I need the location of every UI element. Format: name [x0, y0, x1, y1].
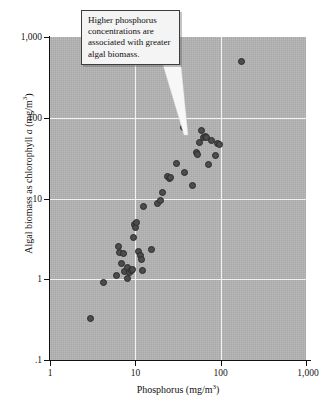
x-ticklabel-1000: 1,000	[286, 368, 330, 378]
data-point	[205, 161, 212, 168]
y-tick-1000	[44, 37, 50, 38]
data-point	[87, 315, 94, 322]
data-point	[189, 182, 196, 189]
data-point	[167, 174, 174, 181]
x-axis-title: Phosphorus (mg/m3)	[50, 384, 306, 395]
y-ticklabel-1000: 1,000	[21, 32, 42, 42]
x-ticklabel-100: 100	[200, 368, 241, 378]
annotation-callout: Higher phosphorus concentrations are ass…	[81, 10, 180, 65]
annotation-line-4: algal biomass.	[88, 49, 174, 60]
x-tick-1000	[306, 361, 307, 366]
data-point	[157, 197, 164, 204]
x-tick-10	[135, 361, 136, 366]
annotation-line-3: associated with greater	[88, 37, 174, 48]
x-axis-title-main: Phosphorus (mg/m	[137, 384, 213, 395]
y-ticklabel-0.1: .1	[35, 355, 42, 365]
data-point	[148, 246, 155, 253]
data-point	[238, 58, 245, 65]
gridline-y-100	[50, 118, 306, 119]
y-axis-title-lead: Algal biomass as chlorophyll	[23, 134, 34, 253]
y-axis-title-tail: )	[23, 93, 34, 96]
data-point	[124, 275, 131, 282]
y-ticklabel-10: 10	[33, 194, 43, 204]
y-tick-1	[44, 279, 50, 280]
data-point	[133, 219, 140, 226]
data-point	[216, 141, 223, 148]
x-axis-line	[49, 360, 311, 361]
data-point	[180, 124, 187, 131]
x-ticklabel-1: 1	[30, 368, 70, 378]
annotation-line-1: Higher phosphorus	[88, 15, 174, 26]
y-ticklabel-1: 1	[37, 274, 42, 284]
gridline-y-1	[50, 279, 306, 280]
y-axis-title: Algal biomass as chlorophyll a (mg/m3)	[23, 54, 34, 294]
annotation-line-2: concentrations are	[88, 26, 174, 37]
y-axis-title-italic-a: a	[23, 129, 34, 134]
data-point	[181, 169, 188, 176]
scatter-plot-figure: 1,000 100 10 1 .1 1 10 100 1,000 Algal b…	[0, 0, 334, 419]
y-tick-10	[44, 199, 50, 200]
data-point	[212, 152, 219, 159]
x-ticklabel-10: 10	[115, 368, 156, 378]
data-point	[138, 256, 145, 263]
data-point	[194, 151, 201, 158]
x-tick-1	[50, 361, 51, 366]
plot-area	[50, 37, 306, 360]
data-point	[100, 279, 107, 286]
y-axis-title-mid: (mg/m	[23, 100, 34, 129]
y-tick-100	[44, 118, 50, 119]
data-point	[173, 160, 180, 167]
data-point	[139, 267, 146, 274]
y-axis-title-superscript: 3	[21, 97, 29, 101]
data-point	[120, 250, 127, 257]
gridline-y-10	[50, 199, 306, 200]
x-axis-title-tail: )	[216, 384, 219, 395]
data-point	[140, 203, 147, 210]
data-point	[159, 189, 166, 196]
x-tick-100	[221, 361, 222, 366]
